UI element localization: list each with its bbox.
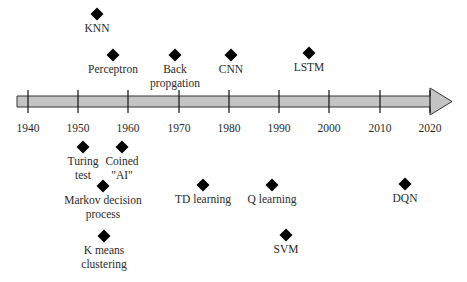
year-label: 2000 [318,121,341,135]
event-label-line: test [68,168,99,182]
event-label-line: K means [81,243,126,257]
event-label-line: "AI" [105,168,138,182]
diamond-marker-icon [116,141,129,154]
event-label-line: Perceptron [88,62,138,76]
event-label-line: Coined [105,154,138,168]
event-label-perceptron: Perceptron [88,62,138,76]
event-label-line: SVM [274,242,299,256]
year-label: 2010 [369,121,392,135]
year-label: 1960 [117,121,140,135]
event-label-dqn: DQN [393,191,418,205]
year-label: 1980 [218,121,241,135]
diamond-marker-icon [197,179,210,192]
diamond-marker-icon [98,230,111,243]
diamond-marker-icon [266,179,279,192]
timeline-arrow [0,0,467,282]
event-label-line: Back [150,62,200,76]
event-label-markov-decision-process: Markov decisionprocess [64,193,142,221]
event-label-lstm: LSTM [294,60,325,74]
ml-history-timeline: 194019501960197019801990200020102020 KNN… [0,0,467,282]
event-label-svm: SVM [274,242,299,256]
timeline-bar [17,88,452,115]
year-label: 1950 [67,121,90,135]
event-label-back-propagation: Backpropgation [150,62,200,90]
event-label-line: KNN [85,21,110,35]
diamond-marker-icon [91,8,104,21]
event-label-knn: KNN [85,21,110,35]
year-label: 1990 [268,121,291,135]
diamond-marker-icon [107,49,120,62]
event-label-td-learning: TD learning [175,192,231,206]
event-label-cnn: CNN [219,62,243,76]
event-label-line: LSTM [294,60,325,74]
diamond-marker-icon [169,49,182,62]
event-label-line: TD learning [175,192,231,206]
year-label: 1970 [168,121,191,135]
event-label-line: propgation [150,76,200,90]
event-label-line: Q learning [248,192,297,206]
diamond-marker-icon [399,178,412,191]
event-label-line: clustering [81,257,126,271]
event-label-line: Markov decision [64,193,142,207]
event-label-turing-test: Turingtest [68,154,99,182]
year-label: 1940 [17,121,40,135]
event-label-k-means-clustering: K meansclustering [81,243,126,271]
event-label-line: DQN [393,191,418,205]
event-label-q-learning: Q learning [248,192,297,206]
diamond-marker-icon [280,229,293,242]
event-label-line: Turing [68,154,99,168]
year-label: 2020 [419,121,442,135]
diamond-marker-icon [77,141,90,154]
diamond-marker-icon [225,49,238,62]
event-label-line: CNN [219,62,243,76]
event-label-line: process [64,207,142,221]
event-label-coined-ai: Coined"AI" [105,154,138,182]
diamond-marker-icon [303,47,316,60]
